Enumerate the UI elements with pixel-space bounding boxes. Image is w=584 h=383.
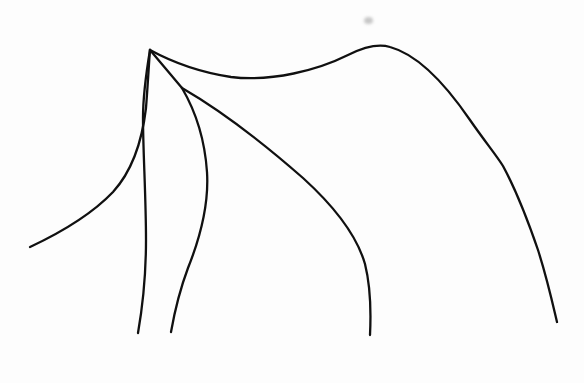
paper-smudge-icon	[364, 17, 373, 24]
paper-background	[0, 0, 584, 383]
line-drawing	[0, 0, 584, 383]
drawing-canvas	[0, 0, 584, 383]
